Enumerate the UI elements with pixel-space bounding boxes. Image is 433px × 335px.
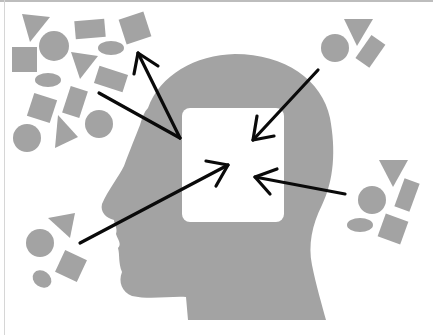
circle-shape	[39, 31, 69, 61]
rectangle-shape	[94, 66, 128, 92]
rectangle-shape	[74, 19, 105, 40]
cluster-top-left	[12, 12, 151, 152]
cluster-bottom-left	[26, 213, 87, 291]
ellipse-shape	[35, 73, 61, 87]
cluster-right	[347, 160, 420, 244]
square-shape	[378, 214, 409, 245]
ellipse-shape	[98, 41, 124, 55]
square-shape	[12, 47, 37, 72]
square-shape	[119, 12, 152, 45]
circle-shape	[26, 229, 54, 257]
triangle-shape	[48, 213, 75, 238]
ellipse-shape	[29, 267, 55, 292]
diagram-canvas	[0, 0, 433, 335]
circle-shape	[85, 110, 113, 138]
triangle-shape	[55, 115, 78, 148]
circle-shape	[358, 186, 386, 214]
square-shape	[55, 250, 87, 282]
circle-shape	[321, 34, 349, 62]
triangle-shape	[71, 52, 98, 79]
square-shape	[27, 93, 57, 123]
rectangle-shape	[62, 86, 88, 118]
rectangle-shape	[394, 178, 419, 212]
cluster-top-right	[321, 19, 385, 68]
circle-shape	[13, 124, 41, 152]
ellipse-shape	[347, 218, 373, 232]
